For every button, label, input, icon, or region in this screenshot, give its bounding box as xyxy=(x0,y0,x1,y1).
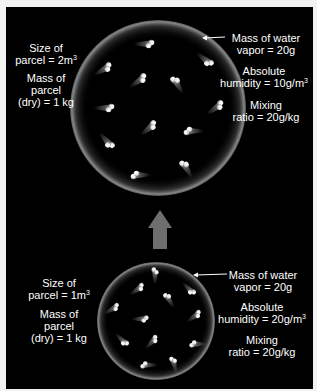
size-label-sup: 3 xyxy=(86,289,90,296)
mass-label-line2: parcel xyxy=(44,320,74,332)
mass-label-line1: Mass of xyxy=(27,72,66,84)
humidity-label-sup: 3 xyxy=(302,313,306,320)
humidity-label-line1: Absolute xyxy=(243,65,286,77)
size-label-line1: Size of xyxy=(29,42,63,54)
mixing-label-line1: Mixing xyxy=(250,99,282,111)
size-label-sup: 3 xyxy=(73,54,77,61)
bottom-humidity-label: Absolute humidity = 20g/m3 xyxy=(218,301,306,325)
humidity-label-value: humidity = 20g/m xyxy=(218,313,302,325)
bottom-mixing-label: Mixing ratio = 20g/kg xyxy=(229,334,296,358)
expanded-parcel xyxy=(70,20,246,196)
vapor-label-value: vapor = 20g xyxy=(237,44,295,56)
size-label-value: parcel = 2m xyxy=(15,54,73,66)
bottom-vapor-label: Mass of water vapor = 20g xyxy=(229,269,297,293)
humidity-label-line1: Absolute xyxy=(241,301,284,313)
bottom-size-label: Size of parcel = 1m3 xyxy=(28,277,90,301)
bottom-mass-label: Mass of parcel (dry) = 1 kg xyxy=(31,308,87,344)
size-label-value: parcel = 1m xyxy=(28,289,86,301)
pointer-arrow-bottom xyxy=(193,273,227,278)
vapor-label-value: vapor = 20g xyxy=(234,281,292,293)
mass-label-line1: Mass of xyxy=(40,308,79,320)
top-vapor-label: Mass of water vapor = 20g xyxy=(232,32,300,56)
top-mixing-label: Mixing ratio = 20g/kg xyxy=(233,99,300,123)
mixing-label-value: ratio = 20g/kg xyxy=(229,346,296,358)
compressed-parcel xyxy=(97,262,227,380)
humidity-label-sup: 3 xyxy=(304,77,308,84)
mass-label-value: (dry) = 1 kg xyxy=(31,332,87,344)
mixing-label-line1: Mixing xyxy=(246,334,278,346)
up-arrow-icon xyxy=(148,210,172,249)
humidity-label-value: humidity = 10g/m xyxy=(220,77,304,89)
mass-label-line2: parcel xyxy=(31,84,61,96)
size-label-line1: Size of xyxy=(42,277,76,289)
top-mass-label: Mass of parcel (dry) = 1 kg xyxy=(18,72,74,108)
top-humidity-label: Absolute humidity = 10g/m3 xyxy=(220,65,308,89)
vapor-label-line1: Mass of water xyxy=(232,32,300,44)
mixing-label-value: ratio = 20g/kg xyxy=(233,111,300,123)
top-size-label: Size of parcel = 2m3 xyxy=(15,42,77,66)
vapor-label-line1: Mass of water xyxy=(229,269,297,281)
mass-label-value: (dry) = 1 kg xyxy=(18,96,74,108)
